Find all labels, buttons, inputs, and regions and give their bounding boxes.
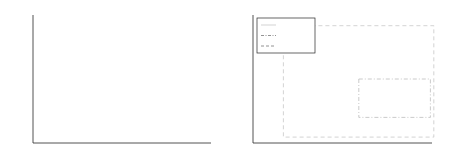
phbrc-box: [359, 79, 431, 117]
right-plot: [253, 15, 434, 143]
legend: [257, 18, 315, 53]
left-plot: [33, 15, 211, 143]
figure: [0, 0, 454, 163]
